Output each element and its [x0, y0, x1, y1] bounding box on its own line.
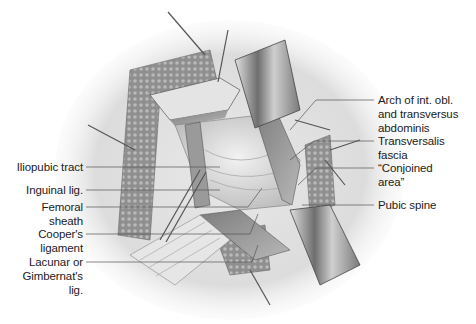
- label-line: sheath: [42, 214, 83, 228]
- label-pubic-spine: Pubic spine: [378, 198, 436, 212]
- label-line: Inguinal lig.: [26, 183, 83, 197]
- label-transversalis-fascia: Transversalis fascia: [378, 134, 445, 162]
- label-coopers-ligament: Cooper's ligament: [38, 227, 83, 255]
- label-line: Transversalis: [378, 134, 445, 148]
- label-line: “Conjoined: [378, 161, 433, 175]
- label-line: Gimbernat's: [22, 269, 83, 283]
- label-conjoined-area: “Conjoined area”: [378, 161, 433, 189]
- label-line: Arch of int. obl.: [378, 93, 458, 107]
- label-line: Iliopubic tract: [17, 160, 83, 174]
- label-lacunar-lig: Lacunar or Gimbernat's lig.: [22, 255, 83, 297]
- label-femoral-sheath: Femoral sheath: [42, 200, 83, 228]
- label-line: area”: [378, 175, 433, 189]
- label-line: Lacunar or: [22, 255, 83, 269]
- label-inguinal-lig: Inguinal lig.: [26, 183, 83, 197]
- label-line: lig.: [22, 283, 83, 297]
- label-line: and transversus: [378, 107, 458, 121]
- label-line: fascia: [378, 148, 445, 162]
- subcutaneous-fat-right: [305, 135, 335, 215]
- label-iliopubic-tract: Iliopubic tract: [17, 160, 83, 174]
- label-line: ligament: [38, 241, 83, 255]
- label-line: Femoral: [42, 200, 83, 214]
- label-line: Pubic spine: [378, 198, 436, 212]
- label-line: abdominis: [378, 121, 458, 135]
- label-line: Cooper's: [38, 227, 83, 241]
- label-arch-int-obl: Arch of int. obl. and transversus abdomi…: [378, 93, 458, 135]
